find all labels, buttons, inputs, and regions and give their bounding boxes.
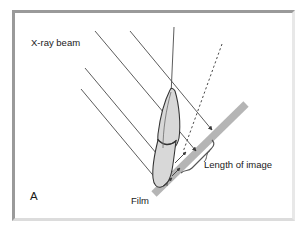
label-length-of-image: Length of image [204, 160, 272, 170]
figure-panel-a: X-ray beam Length of image Film A [0, 0, 308, 234]
label-film: Film [131, 196, 149, 206]
label-xray-beam: X-ray beam [31, 38, 80, 48]
panel-letter-a: A [30, 190, 38, 203]
